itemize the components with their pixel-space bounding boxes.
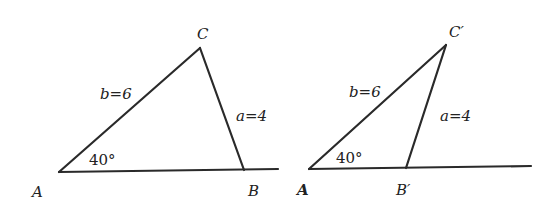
side-b-label: b=6	[100, 85, 132, 103]
baseline-left	[59, 169, 278, 172]
vertex-b-label: B	[247, 182, 259, 200]
vertex-c-prime-label: C′	[449, 23, 464, 41]
side-a-label: a=4	[236, 107, 267, 125]
ambiguous-case-diagram: C A B b=6 a=4 40° C′ A B′ b=6 a=4 40°	[0, 0, 554, 215]
angle-label: 40°	[89, 151, 116, 169]
side-b-left	[59, 48, 200, 172]
vertex-c-label: C	[197, 25, 209, 43]
triangle-left: C A B b=6 a=4 40°	[30, 25, 278, 201]
vertex-a-label: A	[30, 183, 43, 201]
vertex-a-label-right: A	[295, 181, 309, 199]
side-b-label-right: b=6	[349, 83, 381, 101]
angle-label-right: 40°	[336, 149, 363, 167]
side-a-label-right: a=4	[440, 107, 471, 125]
vertex-b-prime-label: B′	[395, 181, 411, 199]
triangle-right: C′ A B′ b=6 a=4 40°	[295, 23, 531, 199]
